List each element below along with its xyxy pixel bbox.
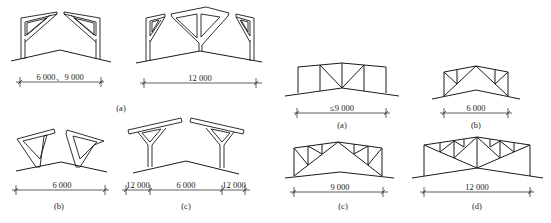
dimension-label: 12 000 — [222, 180, 245, 190]
right-a-truss-9000: ≤9 000 — [285, 63, 399, 118]
right-b-truss-6000: 6 000 — [432, 66, 520, 118]
dimension-label: 9 000 — [330, 182, 349, 192]
dimension-label: 6 000 — [466, 103, 485, 113]
dimension-label: 6 000 — [176, 180, 195, 190]
skylight-frames-diagram: 6 000、9 000 12 000 (a) — [0, 0, 551, 223]
left-b-frame-6000: 6 000 — [12, 129, 109, 195]
dimension-label: ≤9 000 — [330, 103, 354, 113]
caption-right-d: (d) — [472, 201, 482, 211]
left-a-frame-12000: 12 000 — [136, 7, 262, 88]
dimension-label: 12 000 — [126, 180, 149, 190]
dimension-label: 12 000 — [188, 73, 211, 83]
dimension-label: 6 000 — [52, 180, 71, 190]
right-c-truss-9000: 9 000 — [285, 142, 394, 197]
left-c-frame-cantilever: 12 000 6 000 12 000 — [122, 118, 250, 195]
caption-right-a: (a) — [337, 120, 347, 130]
caption-left-a: (a) — [116, 103, 126, 113]
caption-right-b: (b) — [471, 120, 481, 130]
left-a-frame-6000-9000: 6 000、9 000 — [11, 12, 111, 87]
dimension-label: 6 000、9 000 — [36, 72, 83, 82]
caption-left-c: (c) — [181, 201, 191, 211]
right-d-truss-12000: 12 000 — [412, 137, 543, 197]
caption-right-c: (c) — [338, 201, 348, 211]
dimension-label: 12 000 — [465, 182, 488, 192]
caption-left-b: (b) — [54, 201, 64, 211]
